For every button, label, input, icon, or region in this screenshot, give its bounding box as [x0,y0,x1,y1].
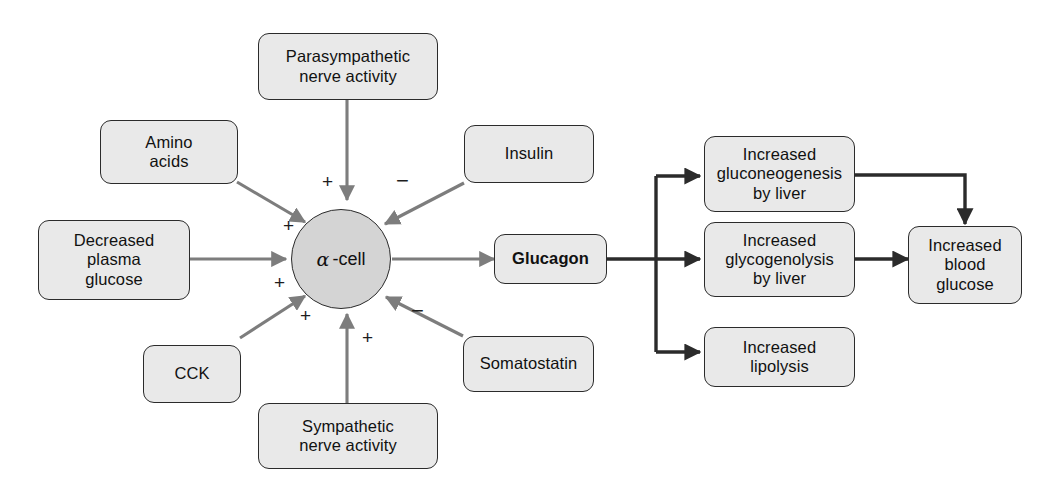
connector-amino-acids-to-cell [237,182,305,222]
node-increased-glycogenolysis[interactable]: Increasedglycogenolysisby liver [704,222,855,297]
node-increased-blood-glucose[interactable]: Increasedbloodglucose [908,226,1022,304]
connector-cck-to-cell [240,296,305,338]
sign-minus-somatostatin: − [411,300,424,322]
node-somatostatin[interactable]: Somatostatin [463,336,594,392]
connector-somatostatin-to-cell [386,297,463,336]
sign-plus-parasympathetic: + [322,172,333,191]
sign-plus-cck: + [300,306,311,325]
connector-gluconeogenesis-to-blood-glucose [855,175,965,224]
diagram-canvas: Parasympatheticnerve activity Aminoacids… [0,0,1045,486]
node-increased-gluconeogenesis[interactable]: Increasedgluconeogenesisby liver [704,136,855,212]
alpha-cell[interactable]: α-cell [291,209,391,309]
sign-plus-sympathetic: + [362,328,373,347]
node-glucagon[interactable]: Glucagon [494,234,607,284]
node-insulin[interactable]: Insulin [464,125,594,183]
node-cck[interactable]: CCK [143,345,241,403]
node-amino-acids[interactable]: Aminoacids [100,120,238,184]
sign-minus-insulin: − [396,170,409,192]
node-parasympathetic-nerve-activity[interactable]: Parasympatheticnerve activity [258,33,438,100]
node-sympathetic-nerve-activity[interactable]: Sympatheticnerve activity [258,403,438,469]
alpha-cell-label: -cell [332,249,365,270]
sign-plus-amino-acids: + [283,216,294,235]
node-increased-lipolysis[interactable]: Increasedlipolysis [704,327,855,387]
alpha-symbol: α [317,248,330,270]
node-decreased-plasma-glucose[interactable]: Decreasedplasmaglucose [38,220,190,300]
sign-plus-plasma-glucose: + [274,273,285,292]
